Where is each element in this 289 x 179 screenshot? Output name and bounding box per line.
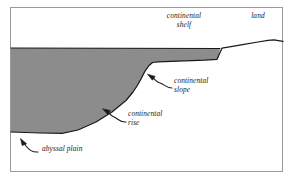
sea-surface-line [11,48,220,49]
label-land: land [240,11,276,20]
label-continental-rise: continental rise [128,109,198,127]
label-continental-slope: continental slope [174,76,246,94]
label-abyssal-plain: abyssal plain [42,144,114,153]
ocean-cross-section-figure: continental shelf land continental slope… [0,0,289,179]
label-continental-shelf: continental shelf [152,11,216,29]
